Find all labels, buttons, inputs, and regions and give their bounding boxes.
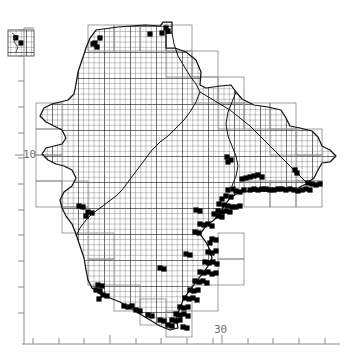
record-square bbox=[204, 280, 209, 285]
record-square bbox=[241, 187, 246, 192]
record-square bbox=[259, 174, 264, 179]
utm-grid-overlay bbox=[0, 0, 347, 361]
record-square bbox=[213, 237, 218, 242]
record-square bbox=[80, 204, 85, 209]
record-square bbox=[165, 28, 170, 33]
distribution-map-figure: 10 30 bbox=[0, 0, 347, 361]
record-square bbox=[227, 209, 232, 214]
record-square bbox=[96, 296, 101, 301]
record-square bbox=[89, 210, 94, 215]
x-axis-ticks bbox=[33, 335, 325, 344]
record-square bbox=[228, 157, 233, 162]
record-square bbox=[207, 240, 212, 245]
record-square bbox=[195, 287, 200, 292]
record-square bbox=[185, 304, 190, 309]
record-square bbox=[219, 196, 224, 201]
record-square bbox=[159, 30, 164, 35]
record-square bbox=[99, 283, 104, 288]
map-canvas bbox=[0, 0, 347, 361]
record-square bbox=[317, 181, 322, 186]
record-square bbox=[213, 270, 218, 275]
record-square bbox=[187, 252, 192, 257]
record-square bbox=[294, 170, 299, 175]
record-square bbox=[104, 293, 109, 298]
record-square bbox=[196, 230, 201, 235]
record-square bbox=[177, 317, 182, 322]
record-square bbox=[184, 325, 189, 330]
y-axis-label-10: 10 bbox=[23, 148, 36, 161]
record-square bbox=[216, 201, 221, 206]
record-square bbox=[97, 35, 102, 40]
record-square bbox=[90, 41, 95, 46]
record-square bbox=[149, 313, 154, 318]
record-square bbox=[228, 194, 233, 199]
record-square bbox=[137, 308, 142, 313]
record-square bbox=[197, 208, 202, 213]
record-square bbox=[307, 187, 312, 192]
record-square bbox=[209, 223, 214, 228]
x-axis-label-30: 30 bbox=[214, 323, 227, 336]
record-square bbox=[185, 313, 190, 318]
record-square bbox=[147, 31, 152, 36]
record-square bbox=[225, 187, 230, 192]
record-square bbox=[214, 261, 219, 266]
record-square bbox=[213, 248, 218, 253]
record-square bbox=[219, 214, 224, 219]
record-square bbox=[194, 297, 199, 302]
record-square bbox=[83, 213, 88, 218]
record-square bbox=[237, 203, 242, 208]
record-square bbox=[169, 323, 174, 328]
inset-island-block bbox=[8, 30, 34, 56]
y-axis-ticks bbox=[15, 30, 24, 313]
record-square bbox=[161, 266, 166, 271]
